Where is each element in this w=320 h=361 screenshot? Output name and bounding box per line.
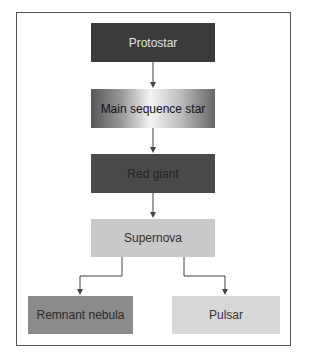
node-pulsar: Pulsar — [172, 296, 280, 334]
node-label: Main sequence star — [101, 102, 206, 116]
node-protostar: Protostar — [91, 23, 215, 62]
node-remnant-nebula: Remnant nebula — [28, 296, 133, 334]
node-red-giant: Red giant — [91, 154, 215, 193]
node-label: Protostar — [129, 36, 178, 50]
node-label: Pulsar — [209, 308, 243, 322]
node-label: Supernova — [124, 231, 182, 245]
node-label: Red giant — [127, 167, 178, 181]
node-label: Remnant nebula — [36, 308, 124, 322]
node-supernova: Supernova — [91, 219, 215, 257]
node-main-sequence-star: Main sequence star — [91, 89, 215, 128]
